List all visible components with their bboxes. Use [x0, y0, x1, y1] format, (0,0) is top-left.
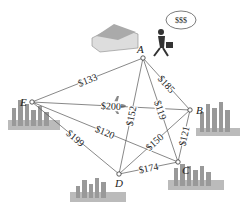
- node-label-A: A: [136, 43, 144, 55]
- edge-weight-label: $119: [152, 99, 169, 121]
- node-B: [188, 108, 192, 112]
- edge-weight-label: $152: [124, 105, 139, 127]
- travel-graph: $$$ $133$185$119$152$200$120$199$150$121…: [0, 0, 242, 208]
- edge-weight-label: $133: [76, 71, 99, 89]
- edge-weight-label: $174: [138, 161, 160, 176]
- node-A: [141, 56, 145, 60]
- node-label-D: D: [114, 177, 123, 189]
- node-label-E: E: [19, 96, 27, 108]
- node-label-C: C: [182, 164, 190, 176]
- edge-weight-label: $150: [143, 131, 165, 153]
- city-skyline-icon-e: [8, 100, 60, 130]
- businessman-icon: [154, 29, 173, 56]
- edge-weight-label: $199: [64, 127, 86, 148]
- thought-bubble: $$$: [166, 11, 196, 29]
- node-C: [176, 160, 180, 164]
- house-icon: [92, 24, 138, 52]
- edge-weight-label: $200: [101, 100, 122, 112]
- node-D: [117, 172, 121, 176]
- node-E: [30, 100, 34, 104]
- edge-weight-label: $185: [156, 73, 178, 95]
- node-label-B: B: [196, 104, 203, 116]
- edge-weight-label: $120: [94, 123, 117, 141]
- svg-text:$$$: $$$: [175, 16, 187, 25]
- city-skyline-icon-c: [168, 164, 224, 190]
- edge-weight-label: $121: [176, 125, 191, 147]
